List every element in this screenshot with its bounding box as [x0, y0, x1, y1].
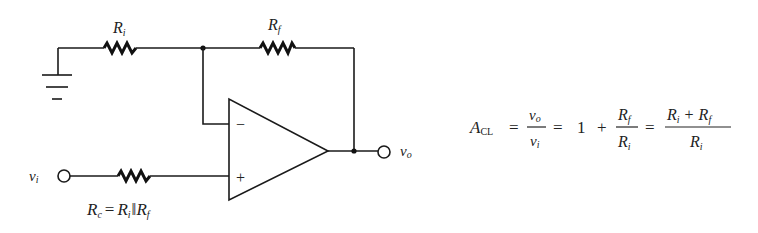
one: 1	[577, 118, 586, 137]
top-wire	[58, 48, 354, 151]
rc-relation: Rc=Ri‖Rf	[86, 200, 151, 220]
vi-label: vi	[29, 168, 39, 185]
eq-2: =	[553, 118, 563, 137]
frac1-numerator: vo	[529, 107, 541, 124]
gain-lhs: ACL	[469, 118, 493, 137]
compensating-resistor-rc	[118, 171, 150, 181]
input-resistor-ri	[104, 43, 136, 53]
output-junction-node	[351, 148, 356, 153]
frac3-denominator: Ri	[689, 133, 703, 152]
eq-1: =	[509, 118, 519, 137]
ground-symbol	[42, 48, 72, 99]
input-terminal	[58, 170, 70, 182]
frac2-denominator: Ri	[617, 133, 631, 152]
output-terminal	[378, 146, 390, 158]
ri-label: Ri	[112, 19, 126, 38]
rf-label: Rf	[267, 16, 282, 35]
frac3-numerator: Ri+Rf	[666, 106, 712, 125]
gain-formula: ACL = vo vi = 1 + Rf Ri = Ri+Rf Ri	[469, 106, 731, 152]
frac1-denominator: vi	[530, 133, 540, 150]
plus: +	[597, 118, 607, 137]
opamp-inverting-sign: −	[236, 116, 245, 133]
inverting-input-wire	[203, 48, 229, 124]
opamp-noninverting-sign: +	[236, 169, 245, 186]
frac2-numerator: Rf	[617, 106, 632, 125]
vo-label: vo	[400, 143, 412, 160]
feedback-resistor-rf	[260, 43, 295, 53]
eq-3: =	[645, 118, 655, 137]
circuit-diagram: Ri Rf − + vo vi Rc=Ri‖Rf ACL = vo	[0, 0, 758, 233]
